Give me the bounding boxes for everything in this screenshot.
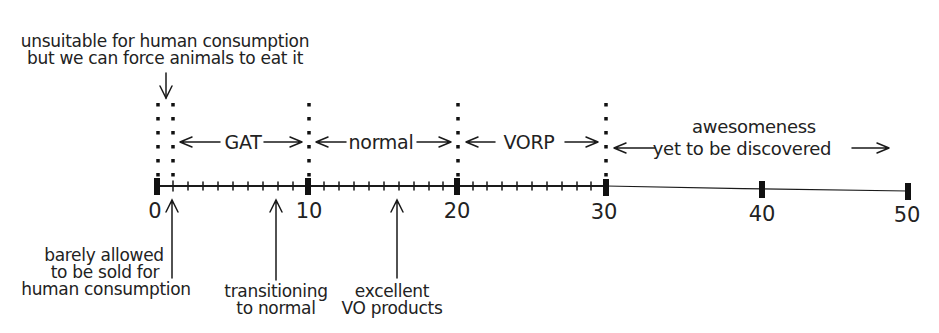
down-arrow-icon [160,73,172,98]
svg-text:awesomeness: awesomeness [692,116,816,137]
svg-text:normal: normal [349,131,414,153]
excellent-note-line2: VO products [341,298,443,318]
up-arrow-icon [270,200,282,280]
major-tick-50 [905,183,911,200]
major-tick-20 [454,178,460,195]
barely-note-line3: human consumption [21,279,191,299]
number-line-diagram: unsuitable for human consumption but we … [0,0,939,333]
up-arrow-icon [391,200,403,278]
major-tick-40 [759,181,765,198]
region-normal: normal [316,131,451,153]
svg-text:VORP: VORP [503,131,554,153]
region-vorp: VORP [466,131,598,153]
right-arrow-icon [565,137,598,147]
region-gat: GAT [180,131,302,153]
right-arrow-icon [417,137,451,147]
region-awesomeness: awesomeness yet to be discovered [614,116,889,159]
right-arrow-icon [264,137,302,147]
svg-text:yet to be discovered: yet to be discovered [653,138,831,159]
left-arrow-icon [466,137,495,147]
tick-label-30: 30 [591,200,618,224]
top-note-line2: but we can force animals to eat it [27,48,304,68]
tick-label-20: 20 [444,199,471,223]
left-arrow-icon [614,143,655,153]
tick-label-50: 50 [894,203,921,227]
transition-note-line2: to normal [236,298,315,318]
major-tick-10 [305,178,311,195]
left-arrow-icon [316,137,346,147]
right-arrow-icon [852,143,889,153]
axis-line-untick [606,186,908,191]
up-arrow-icon [166,200,178,278]
tick-label-0: 0 [148,199,161,223]
tick-label-10: 10 [296,199,323,223]
tick-label-40: 40 [749,202,776,226]
svg-text:GAT: GAT [225,131,263,153]
left-arrow-icon [180,137,220,147]
major-tick-0 [154,178,160,195]
major-tick-30 [603,179,609,196]
